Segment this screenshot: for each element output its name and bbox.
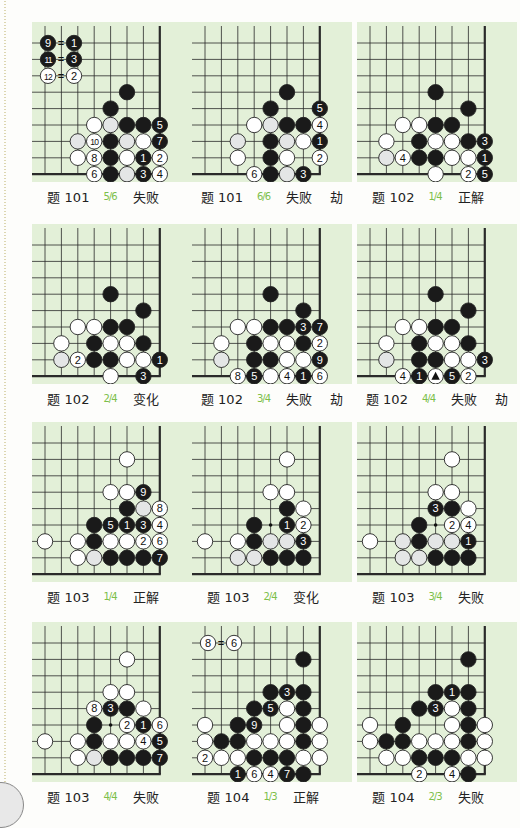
white-stone — [279, 734, 294, 749]
black-stone: 1 — [230, 767, 245, 782]
white-stone — [136, 501, 151, 516]
black-stone — [87, 517, 102, 532]
white-stone — [461, 501, 476, 516]
svg-text:1: 1 — [71, 37, 77, 49]
white-stone — [428, 534, 443, 549]
white-stone — [379, 134, 394, 149]
white-stone — [247, 550, 262, 565]
white-stone — [461, 750, 476, 765]
black-stone — [247, 750, 262, 765]
white-stone: 4 — [152, 517, 167, 532]
svg-text:2: 2 — [124, 719, 130, 731]
white-stone — [263, 534, 278, 549]
black-stone: 7 — [312, 319, 327, 334]
white-stone: 8 — [152, 501, 167, 516]
svg-text:1: 1 — [284, 519, 290, 531]
black-stone: 1 — [136, 717, 151, 732]
go-board-svg: 34125 — [357, 22, 517, 182]
black-stone — [395, 734, 410, 749]
white-stone — [119, 134, 134, 149]
black-stone — [296, 767, 311, 782]
svg-text:3: 3 — [284, 686, 290, 698]
black-stone: 5 — [152, 734, 167, 749]
diagram-fraction: 5/6 — [103, 191, 116, 202]
white-stone — [103, 369, 118, 384]
svg-text:2: 2 — [465, 370, 471, 382]
black-stone — [279, 550, 294, 565]
black-stone — [296, 117, 311, 132]
white-stone — [279, 717, 294, 732]
white-stone — [103, 485, 118, 500]
svg-text:6: 6 — [91, 168, 97, 180]
svg-text:5: 5 — [108, 519, 114, 531]
black-stone — [247, 352, 262, 367]
equals-sign: = — [58, 37, 64, 49]
svg-text:9: 9 — [251, 719, 257, 731]
diagram-result: 失败 — [286, 187, 312, 206]
svg-text:2: 2 — [317, 337, 323, 349]
svg-text:4: 4 — [465, 519, 471, 531]
svg-text:6: 6 — [157, 719, 163, 731]
problem-number: 题 102 — [372, 187, 414, 206]
black-stone — [279, 85, 294, 100]
white-stone — [119, 150, 134, 165]
black-stone: 1 — [477, 150, 492, 165]
black-stone — [428, 750, 443, 765]
white-stone: 4 — [279, 369, 294, 384]
white-stone — [279, 452, 294, 467]
black-stone — [247, 517, 262, 532]
svg-text:2: 2 — [317, 152, 323, 164]
black-stone: 3 — [477, 352, 492, 367]
diagram-fraction: 2/4 — [103, 393, 116, 404]
svg-text:4: 4 — [140, 735, 146, 747]
black-stone — [119, 550, 134, 565]
svg-text:6: 6 — [317, 370, 323, 382]
white-stone — [119, 352, 134, 367]
white-stone — [477, 750, 492, 765]
go-board: 8=635921647 — [192, 622, 352, 782]
svg-text:6: 6 — [231, 637, 237, 649]
white-stone — [412, 117, 427, 132]
black-stone — [461, 303, 476, 318]
white-stone: 4 — [136, 734, 151, 749]
diagram-caption: 题 103 3/4 失败 — [357, 585, 517, 607]
diagram-fraction: 1/4 — [103, 591, 116, 602]
svg-text:3: 3 — [433, 702, 439, 714]
white-stone — [477, 734, 492, 749]
white-stone — [428, 134, 443, 149]
white-stone — [444, 734, 459, 749]
black-stone — [87, 534, 102, 549]
white-stone — [119, 485, 134, 500]
white-stone: 6 — [247, 167, 262, 182]
diagram-cell-4: 213 题 102 2/4 变化 — [32, 224, 192, 414]
go-board-svg: 123 — [192, 422, 352, 582]
diagram-result: 失败 — [133, 787, 159, 806]
black-stone: 5 — [103, 517, 118, 532]
black-stone — [103, 134, 118, 149]
black-stone: 1 — [279, 517, 294, 532]
go-board-svg: 83216457 — [32, 622, 192, 782]
white-stone — [444, 150, 459, 165]
svg-text:5: 5 — [449, 370, 455, 382]
white-stone — [362, 534, 377, 549]
diagram-cell-2: 541263 题 101 6/6 失败 劫 — [192, 22, 352, 212]
white-stone — [444, 352, 459, 367]
white-stone — [296, 352, 311, 367]
black-stone — [412, 150, 427, 165]
go-board: 83216457 — [32, 622, 192, 782]
go-board-svg: 34152 — [357, 224, 517, 384]
svg-text:7: 7 — [157, 135, 163, 147]
white-stone: 10 — [87, 134, 102, 149]
black-stone — [461, 336, 476, 351]
white-stone — [247, 734, 262, 749]
annotation-stone: 2 — [66, 68, 81, 83]
white-stone: 2 — [412, 767, 427, 782]
diagram-caption: 题 103 2/4 变化 — [192, 585, 352, 607]
svg-text:4: 4 — [157, 519, 163, 531]
black-stone — [428, 319, 443, 334]
white-stone — [230, 150, 245, 165]
svg-text:1: 1 — [140, 719, 146, 731]
diagram-fraction: 3/4 — [428, 591, 441, 602]
white-stone — [444, 336, 459, 351]
white-stone — [379, 750, 394, 765]
